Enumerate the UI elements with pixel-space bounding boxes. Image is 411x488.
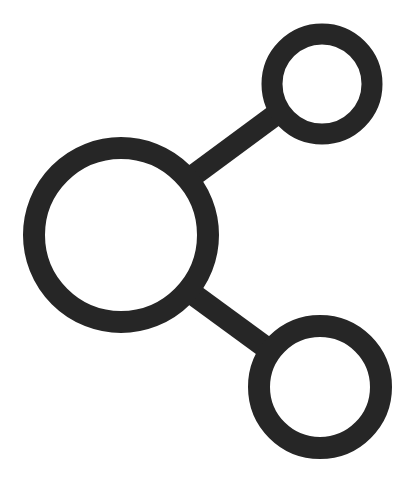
connector-main-to-top (190, 113, 278, 178)
node-main-ring (34, 148, 208, 322)
share-icon (0, 0, 411, 488)
node-bottom-ring (259, 326, 381, 448)
node-top-ring (272, 34, 372, 134)
share-icon-canvas: Share / network icon: three ring nodes c… (0, 0, 411, 488)
connector-main-to-bottom (190, 292, 272, 352)
